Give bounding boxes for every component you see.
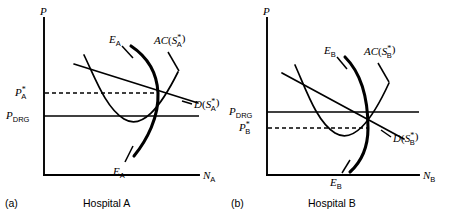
panel-b: P NB PDRG P*B EB EB AC(S*B) D(S*B) (b) H… xyxy=(228,5,435,209)
panel-b-e-curve-upper-label: EB xyxy=(323,44,336,59)
panel-b-panel-label: (b) xyxy=(231,197,244,209)
panel-a-e-upper-sub: A xyxy=(116,39,121,48)
panel-a-x-axis-label-sub: A xyxy=(210,175,215,184)
panel-a-e-lower-sub: A xyxy=(120,171,125,180)
panel-a-price-star-label: P*A xyxy=(14,85,26,102)
panel-a-e-curve xyxy=(131,46,158,156)
panel-b-ac-prefix: AC xyxy=(363,45,379,57)
panel-b-drg-label: PDRG xyxy=(228,105,253,120)
panel-b-x-axis-label-sub: B xyxy=(430,175,435,184)
panel-b-demand-curve xyxy=(282,73,404,139)
figure-two-panel-hospital-diagram: P NA P*A PDRG EA EA AC(S*A) D(S*A) (a) H… xyxy=(0,0,451,219)
panel-a-panel-label: (a) xyxy=(5,197,18,209)
panel-a-y-axis-label: P xyxy=(39,5,47,17)
panel-b-e-curve-lower-label: EB xyxy=(329,176,342,191)
panel-b-ac-curve xyxy=(295,65,389,136)
panel-b-price-star-label: P*B xyxy=(238,120,250,137)
panel-a-ac-leader-line xyxy=(168,52,179,71)
panel-a-drg-label: PDRG xyxy=(5,109,30,124)
panel-b-d-curve-label: D(S*B) xyxy=(392,130,419,148)
panel-a-d-prefix: D xyxy=(193,98,202,110)
panel-a-d-curve-label: D(S*A) xyxy=(193,96,220,114)
panel-b-ac-leader-line xyxy=(378,63,389,82)
panel-a-e-lower-leader-line xyxy=(125,146,133,162)
panel-b-y-axis-label: P xyxy=(262,5,270,17)
panel-a-ac-prefix: AC xyxy=(153,34,169,46)
panel-a-e-curve-lower-label: EA xyxy=(112,165,125,180)
panel-b-e-upper-sub: B xyxy=(331,50,336,59)
panel-a-caption: Hospital A xyxy=(83,197,130,209)
panel-b-ac-curve-label: AC(S*B) xyxy=(363,43,396,61)
panel-b-price-star-sub: B xyxy=(245,127,250,136)
panel-a-drg-sub: DRG xyxy=(13,115,30,124)
panel-a-demand-curve xyxy=(74,64,198,103)
figure-canvas: P NA P*A PDRG EA EA AC(S*A) D(S*A) (a) H… xyxy=(0,0,451,219)
panel-a: P NA P*A PDRG EA EA AC(S*A) D(S*A) (a) H… xyxy=(5,5,220,209)
panel-b-d-prefix: D xyxy=(392,132,401,144)
panel-a-x-axis-label: NA xyxy=(202,169,215,184)
panel-b-caption: Hospital B xyxy=(308,197,356,209)
panel-a-price-star-sub: A xyxy=(21,92,26,101)
panel-a-ac-curve xyxy=(84,55,178,122)
panel-b-x-axis-label: NB xyxy=(422,169,435,184)
panel-b-e-lower-sub: B xyxy=(337,182,342,191)
panel-b-e-curve xyxy=(345,57,368,172)
panel-b-drg-sub: DRG xyxy=(236,111,253,120)
panel-a-ac-curve-label: AC(S*A) xyxy=(153,32,186,50)
panel-a-e-curve-upper-label: EA xyxy=(108,33,121,48)
